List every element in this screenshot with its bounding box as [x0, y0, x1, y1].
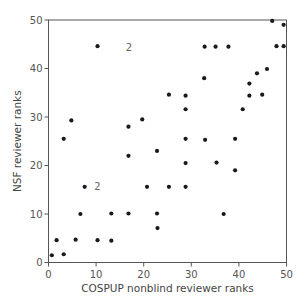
- y-axis-label: NSF reviewer ranks: [11, 90, 23, 192]
- plot-frame: [49, 20, 287, 263]
- data-point: [183, 107, 187, 111]
- data-point: [214, 160, 218, 164]
- data-point: [202, 76, 206, 80]
- data-point: [255, 71, 259, 75]
- count-annotation: 2: [126, 42, 132, 53]
- y-tick-label: 40: [30, 63, 43, 74]
- data-point: [155, 149, 159, 153]
- data-point: [109, 211, 113, 215]
- data-point: [167, 185, 171, 189]
- data-point: [155, 211, 159, 215]
- y-tick-label: 20: [30, 160, 43, 171]
- plot-area-border: [49, 20, 287, 263]
- data-point: [265, 67, 269, 71]
- y-tick-label: 50: [30, 15, 43, 26]
- x-tick-label: 10: [90, 269, 103, 280]
- scatter-chart: 01020304050 01020304050 22 COSPUP nonbli…: [0, 0, 305, 308]
- x-axis: 01020304050: [45, 263, 293, 280]
- data-point: [62, 137, 66, 141]
- data-point: [83, 185, 87, 189]
- y-tick-label: 10: [30, 209, 43, 220]
- data-point: [183, 94, 187, 98]
- data-point: [95, 238, 99, 242]
- data-point: [222, 212, 226, 216]
- data-point: [109, 239, 113, 243]
- data-point: [167, 93, 171, 97]
- data-point: [78, 212, 82, 216]
- y-tick-label: 0: [36, 257, 42, 268]
- data-point: [183, 137, 187, 141]
- data-point: [95, 44, 99, 48]
- y-tick-label: 30: [30, 112, 43, 123]
- data-point: [247, 94, 251, 98]
- data-point: [69, 118, 73, 122]
- data-point: [241, 107, 245, 111]
- data-point: [126, 154, 130, 158]
- data-point: [247, 81, 251, 85]
- data-point: [203, 45, 207, 49]
- data-point: [226, 45, 230, 49]
- data-point: [155, 226, 159, 230]
- data-point: [233, 137, 237, 141]
- data-point: [145, 185, 149, 189]
- data-point: [54, 238, 58, 242]
- data-point: [126, 211, 130, 215]
- data-point: [74, 238, 78, 242]
- data-point: [213, 45, 217, 49]
- x-tick-label: 50: [280, 269, 293, 280]
- x-tick-label: 0: [45, 269, 51, 280]
- data-point: [274, 44, 278, 48]
- data-point: [50, 253, 54, 257]
- data-points: [50, 19, 286, 257]
- data-point: [183, 161, 187, 165]
- count-annotation: 2: [94, 181, 100, 192]
- x-axis-label: COSPUP nonblind reviewer ranks: [81, 282, 254, 294]
- data-point: [270, 19, 274, 23]
- x-tick-label: 40: [233, 269, 246, 280]
- data-point: [282, 44, 286, 48]
- data-point: [282, 23, 286, 27]
- data-point: [140, 117, 144, 121]
- count-annotations: 22: [94, 42, 132, 193]
- data-point: [62, 252, 66, 256]
- y-axis: 01020304050: [30, 15, 49, 269]
- data-point: [183, 185, 187, 189]
- data-point: [126, 125, 130, 129]
- x-tick-label: 30: [185, 269, 198, 280]
- data-point: [203, 138, 207, 142]
- data-point: [233, 168, 237, 172]
- x-tick-label: 20: [137, 269, 150, 280]
- data-point: [260, 93, 264, 97]
